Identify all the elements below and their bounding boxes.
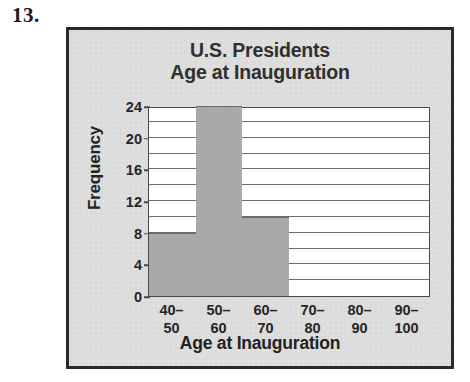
bar-series [149,108,429,296]
bar-40-50 [149,233,196,296]
y-tick-label: 8 [108,226,142,242]
bar-slot [336,108,383,296]
problem-number: 13. [12,3,40,28]
y-tick-label: 0 [108,289,142,305]
x-tick-lower-bound: 50– [195,302,242,320]
bar-50-60 [196,106,243,296]
y-axis-title: Frequency [85,108,105,228]
chart-title-line-1: U.S. Presidents [190,39,330,61]
bar-60-70 [242,217,289,296]
figure-frame: U.S. Presidents Age at Inauguration Freq… [66,27,454,369]
bar-slot [289,108,336,296]
x-tick-lower-bound: 60– [242,302,289,320]
bar-slot [242,108,289,296]
chart-title: U.S. Presidents Age at Inauguration [69,40,451,84]
x-tick-lower-bound: 90– [383,302,430,320]
y-axis-tick-labels: 04812162024 [108,107,142,297]
chart-title-line-2: Age at Inauguration [69,62,451,84]
plot-area [148,107,430,297]
x-axis-title: Age at Inauguration [69,333,451,354]
y-tick-label: 12 [108,194,142,210]
y-tick-label: 4 [108,257,142,273]
y-tick-label: 20 [108,131,142,147]
bar-slot [196,108,243,296]
x-tick-lower-bound: 70– [289,302,336,320]
bar-slot [382,108,429,296]
y-tick-label: 24 [108,99,142,115]
y-tick-label: 16 [108,162,142,178]
x-tick-lower-bound: 80– [336,302,383,320]
bar-slot [149,108,196,296]
x-tick-lower-bound: 40– [148,302,195,320]
